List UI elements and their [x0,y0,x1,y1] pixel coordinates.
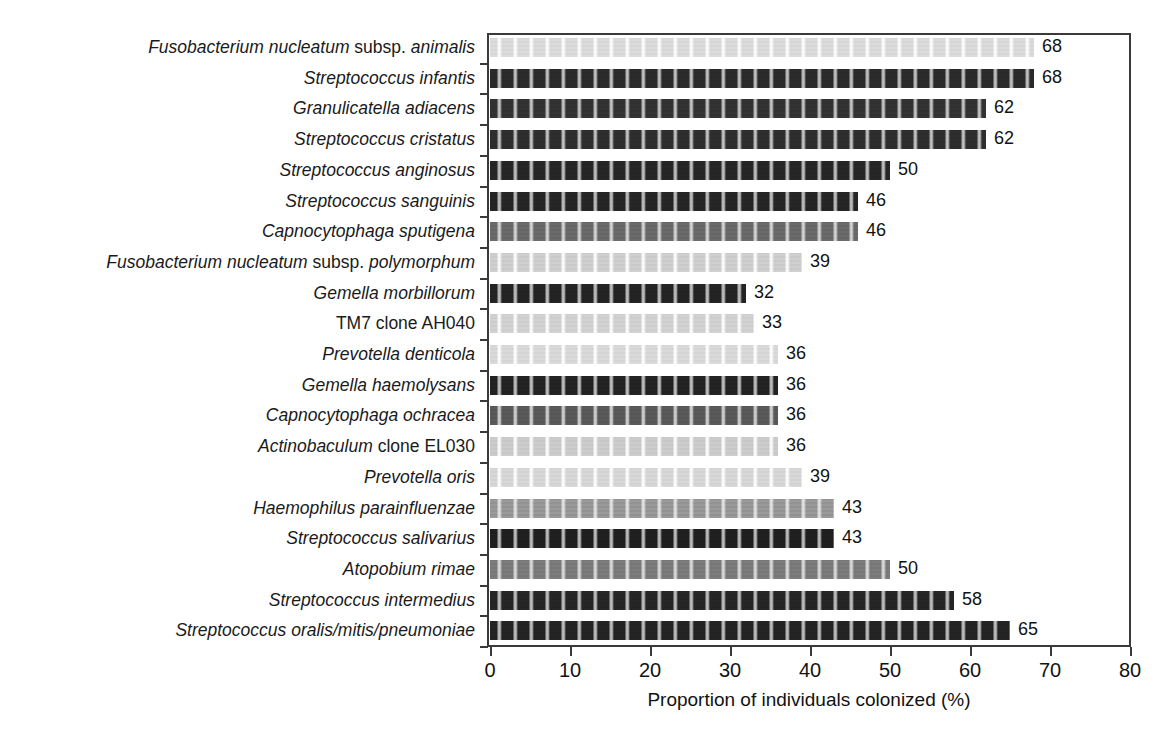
bar-value-label: 62 [994,128,1014,149]
category-label: Prevotella oris [0,468,480,486]
x-axis-tick [650,647,652,656]
x-axis-tick [970,647,972,656]
bar [490,161,890,180]
bar [490,192,858,211]
x-axis-tick-label: 40 [799,658,821,682]
category-label: Gemella morbillorum [0,284,480,302]
bar [490,130,986,149]
bar [490,437,778,456]
bar-row: 62 [490,94,1130,125]
x-axis-tick-label: 50 [879,658,901,682]
bar [490,99,986,118]
category-label: Gemella haemolysans [0,376,480,394]
bar [490,591,954,610]
bar-value-label: 46 [866,190,886,211]
category-label: Prevotella denticola [0,345,480,363]
category-label: Capnocytophaga ochracea [0,406,480,424]
bar [490,284,746,303]
bar-row: 33 [490,309,1130,340]
category-label: Streptococcus salivarius [0,529,480,547]
bar-row: 43 [490,524,1130,555]
bar-row: 36 [490,371,1130,402]
bar-chart-figure: Fusobacterium nucleatum subsp. animalisS… [0,0,1175,740]
bar-value-label: 39 [810,251,830,272]
x-axis-tick [570,647,572,656]
category-label: Atopobium rimae [0,560,480,578]
x-axis-tick-label: 30 [719,658,741,682]
bar-row: 36 [490,340,1130,371]
bar-value-label: 46 [866,220,886,241]
bar-value-label: 36 [786,374,806,395]
bar-value-label: 58 [962,589,982,610]
bar [490,222,858,241]
x-axis-tick [1050,647,1052,656]
x-axis-tick-label: 60 [959,658,981,682]
bar-row: 50 [490,156,1130,187]
category-label: Fusobacterium nucleatum subsp. animalis [0,38,480,56]
bar [490,253,802,272]
bar-row: 62 [490,125,1130,156]
bar-value-label: 36 [786,404,806,425]
bar-row: 46 [490,187,1130,218]
bar-value-label: 68 [1042,67,1062,88]
category-label: Streptococcus sanguinis [0,192,480,210]
category-label: Haemophilus parainfluenzae [0,499,480,517]
bar-row: 36 [490,432,1130,463]
x-axis-tick [810,647,812,656]
bars-layer: 6868626250464639323336363636394343505865 [490,33,1130,647]
bar [490,345,778,364]
bar-row: 39 [490,463,1130,494]
bar-row: 32 [490,279,1130,310]
bar-value-label: 43 [842,527,862,548]
x-axis-tick-label: 0 [484,658,495,682]
x-axis-tick [490,647,492,656]
x-axis-tick [890,647,892,656]
category-axis-labels: Fusobacterium nucleatum subsp. animalisS… [0,33,480,647]
bar-value-label: 36 [786,435,806,456]
category-label: TM7 clone AH040 [0,314,480,332]
bar-row: 39 [490,248,1130,279]
bar [490,621,1010,640]
category-label: Actinobaculum clone EL030 [0,437,480,455]
bar-row: 50 [490,555,1130,586]
x-axis-title: Proportion of individuals colonized (%) [487,688,1131,712]
bar-value-label: 36 [786,343,806,364]
bar [490,406,778,425]
category-label: Streptococcus intermedius [0,591,480,609]
bar-row: 36 [490,401,1130,432]
category-label: Capnocytophaga sputigena [0,222,480,240]
bar-row: 46 [490,217,1130,248]
category-label: Streptococcus cristatus [0,130,480,148]
bar-row: 65 [490,616,1130,647]
bar-value-label: 65 [1018,619,1038,640]
bar-row: 68 [490,33,1130,64]
bar-row: 58 [490,586,1130,617]
x-axis-tick-label: 10 [559,658,581,682]
x-axis-tick-label: 80 [1119,658,1141,682]
bar [490,376,778,395]
bar [490,499,834,518]
bar [490,38,1034,57]
bar [490,468,802,487]
bar-value-label: 50 [898,558,918,579]
bar-row: 68 [490,64,1130,95]
category-label: Fusobacterium nucleatum subsp. polymorph… [0,253,480,271]
x-axis-tick [1130,647,1132,656]
category-label: Streptococcus infantis [0,69,480,87]
bar [490,560,890,579]
bar-value-label: 33 [762,312,782,333]
bar-value-label: 39 [810,466,830,487]
bar-row: 43 [490,494,1130,525]
bar [490,314,754,333]
x-axis-tick-label: 70 [1039,658,1061,682]
bar [490,69,1034,88]
bar-value-label: 50 [898,159,918,180]
x-axis-tick-label: 20 [639,658,661,682]
bar-value-label: 43 [842,497,862,518]
bar [490,529,834,548]
bar-value-label: 32 [754,282,774,303]
bar-value-label: 62 [994,97,1014,118]
x-axis-tick [730,647,732,656]
category-label: Streptococcus oralis/mitis/pneumoniae [0,621,480,639]
bar-value-label: 68 [1042,36,1062,57]
